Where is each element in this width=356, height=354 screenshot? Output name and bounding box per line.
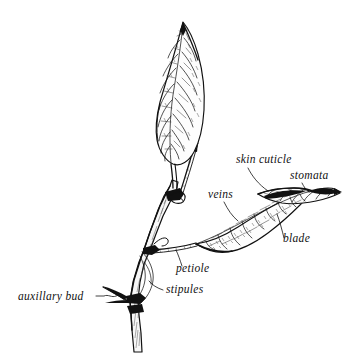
label-blade: blade: [283, 232, 310, 244]
label-skin-cuticle: skin cuticle: [236, 153, 292, 165]
label-veins: veins: [208, 188, 233, 200]
leaf-anatomy-figure: skin cuticle stomata veins blade petiole…: [0, 0, 356, 354]
label-stipules: stipules: [166, 283, 204, 296]
label-stomata: stomata: [290, 169, 329, 181]
botanical-illustration: skin cuticle stomata veins blade petiole…: [0, 0, 356, 354]
label-petiole: petiole: [175, 262, 209, 275]
label-auxillary-bud: auxillary bud: [18, 290, 84, 303]
